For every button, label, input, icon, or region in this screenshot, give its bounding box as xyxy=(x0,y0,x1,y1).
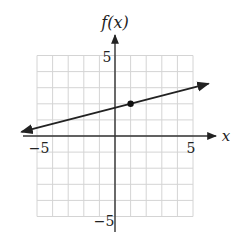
y-axis-label: f(x) xyxy=(100,13,128,32)
axis-labels: −555−5xf(x) xyxy=(29,13,231,229)
axes xyxy=(23,35,216,232)
function-graph: −555−5xf(x) xyxy=(0,0,244,237)
x-tick-label: 5 xyxy=(187,140,196,156)
x-tick-label: −5 xyxy=(29,140,50,156)
x-axis-label: x xyxy=(222,127,231,145)
y-tick-label: −5 xyxy=(94,213,115,229)
data-point xyxy=(127,101,133,107)
y-tick-label: 5 xyxy=(103,49,112,65)
